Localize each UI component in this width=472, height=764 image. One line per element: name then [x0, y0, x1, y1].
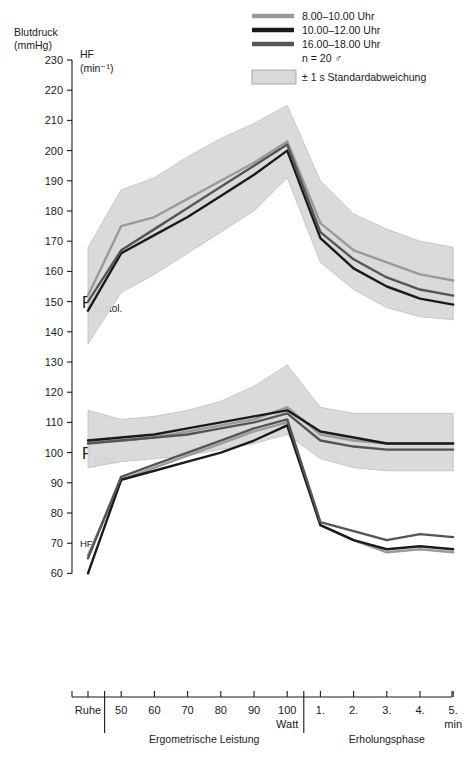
y-axis-title-line1: Blutdruck	[14, 26, 59, 38]
y-axis-title-line2: (mmHg)	[14, 39, 52, 51]
y-tick-label-80: 80	[51, 507, 63, 519]
y-tick-label-90: 90	[51, 477, 63, 489]
hf-unit-line1: HF	[80, 48, 94, 60]
y-tick-label-140: 140	[45, 326, 63, 338]
x-tick-label-2: 60	[148, 704, 160, 716]
y-tick-label-210: 210	[45, 114, 63, 126]
y-tick-label-70: 70	[51, 537, 63, 549]
legend-label-1: 10.00–12.00 Uhr	[302, 24, 381, 36]
x-tick-label-10: 4.	[415, 704, 424, 716]
min-unit-label: min	[444, 718, 462, 730]
y-tick-label-100: 100	[45, 447, 63, 459]
y-tick-label-130: 130	[45, 356, 63, 368]
blood-pressure-heart-rate-chart: 2302202102001901801701601501401301201101…	[0, 0, 472, 764]
group-label-ergometry: Ergometrische Leistung	[149, 733, 259, 745]
y-tick-label-180: 180	[45, 205, 63, 217]
y-tick-label-230: 230	[45, 54, 63, 66]
legend-label-2: 16.00–18.00 Uhr	[302, 38, 381, 50]
legend-band-swatch	[252, 70, 296, 84]
y-tick-label-200: 200	[45, 145, 63, 157]
y-tick-label-220: 220	[45, 84, 63, 96]
x-tick-label-9: 3.	[382, 704, 391, 716]
x-tick-label-3: 70	[181, 704, 193, 716]
y-tick-label-160: 160	[45, 265, 63, 277]
hf-unit-line2: (min⁻¹)	[80, 62, 113, 74]
y-tick-label-60: 60	[51, 567, 63, 579]
group-label-recovery: Erholungsphase	[349, 733, 425, 745]
x-tick-label-8: 2.	[349, 704, 358, 716]
legend-sample-size: n = 20 ♂	[302, 52, 342, 64]
x-tick-label-7: 1.	[316, 704, 325, 716]
y-tick-label-110: 110	[45, 416, 63, 428]
legend-band-label: ± 1 s Standardabweichung	[302, 71, 426, 83]
legend-label-0: 8.00–10.00 Uhr	[302, 10, 375, 22]
sd-band-psystol	[88, 105, 453, 344]
x-tick-label-11: 5.	[449, 704, 458, 716]
watt-unit-label: Watt	[276, 718, 298, 730]
y-tick-label-190: 190	[45, 175, 63, 187]
x-tick-label-0: Ruhe	[75, 704, 101, 716]
y-tick-label-150: 150	[45, 296, 63, 308]
x-tick-label-6: 100	[278, 704, 296, 716]
x-tick-label-1: 50	[115, 704, 127, 716]
y-tick-label-120: 120	[45, 386, 63, 398]
y-tick-label-170: 170	[45, 235, 63, 247]
chart-canvas: 2302202102001901801701601501401301201101…	[0, 0, 472, 764]
x-tick-label-4: 80	[215, 704, 227, 716]
x-tick-label-5: 90	[248, 704, 260, 716]
